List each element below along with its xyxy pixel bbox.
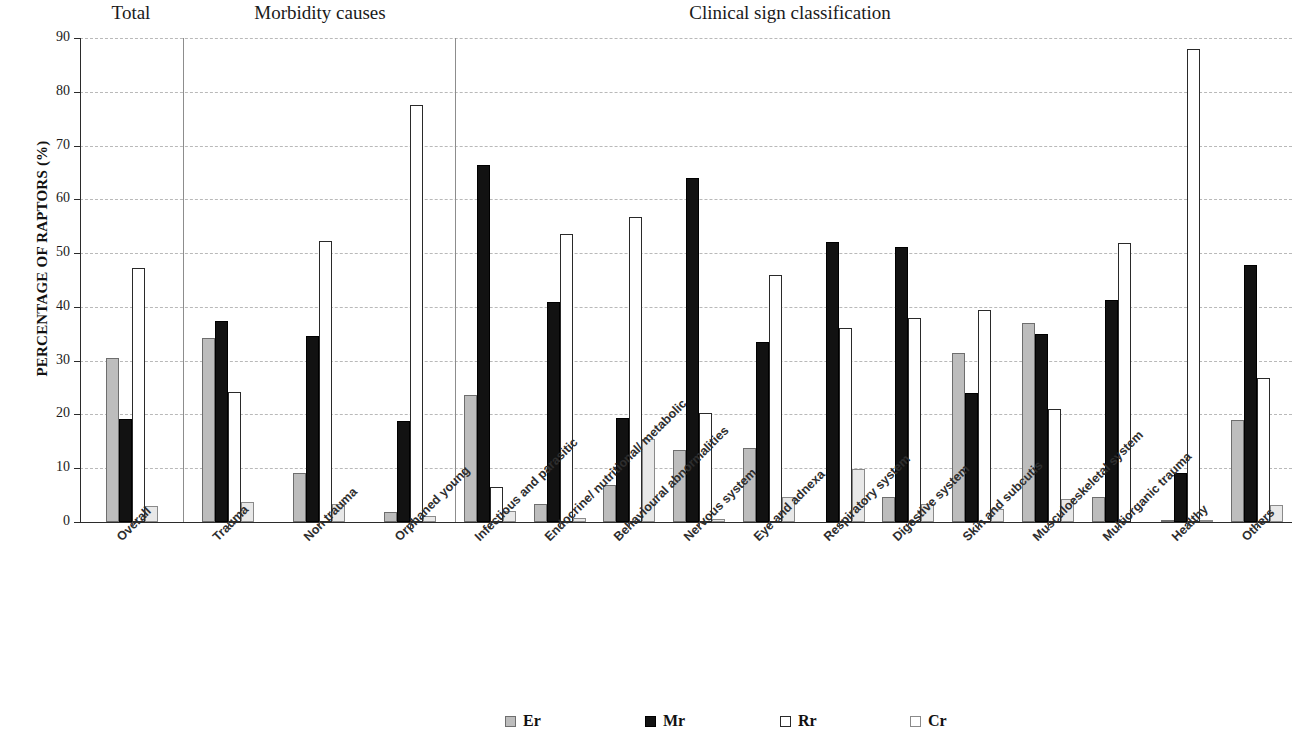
- bar-group: [464, 38, 516, 522]
- y-tick-label-0: 0: [36, 513, 70, 529]
- y-axis-line: [80, 38, 81, 523]
- bar-er-12[interactable]: [1022, 323, 1035, 523]
- legend-swatch-cr-icon: [910, 716, 921, 727]
- bar-mr-11[interactable]: [965, 393, 978, 522]
- legend-label-rr: Rr: [798, 712, 817, 730]
- bar-mr-13[interactable]: [1105, 300, 1118, 522]
- x-tick-mark-4: [490, 522, 491, 528]
- legend-item-cr[interactable]: Cr: [910, 712, 947, 730]
- legend-item-mr[interactable]: Mr: [645, 712, 685, 730]
- y-tick-label-20: 20: [36, 405, 70, 421]
- bar-rr-1[interactable]: [228, 392, 241, 522]
- bar-er-4[interactable]: [464, 395, 477, 522]
- x-tick-mark-12: [1048, 522, 1049, 528]
- y-tick-label-30: 30: [36, 352, 70, 368]
- bar-group: [1231, 38, 1283, 522]
- bar-rr-2[interactable]: [319, 241, 332, 522]
- y-tick-label-50: 50: [36, 244, 70, 260]
- bar-group: [384, 38, 436, 522]
- bar-rr-14[interactable]: [1187, 49, 1200, 522]
- x-tick-mark-10: [908, 522, 909, 528]
- bar-rr-10[interactable]: [908, 318, 921, 522]
- x-tick-mark-11: [978, 522, 979, 528]
- bar-rr-3[interactable]: [410, 105, 423, 522]
- bar-er-15[interactable]: [1231, 420, 1244, 522]
- y-tick-label-60: 60: [36, 190, 70, 206]
- x-tick-mark-1: [228, 522, 229, 528]
- bar-er-3[interactable]: [384, 512, 397, 522]
- bar-rr-8[interactable]: [769, 275, 782, 522]
- bar-er-1[interactable]: [202, 338, 215, 522]
- x-tick-mark-8: [769, 522, 770, 528]
- x-tick-mark-5: [560, 522, 561, 528]
- panel-separator-2: [455, 38, 456, 522]
- x-tick-mark-0: [132, 522, 133, 528]
- y-tick-label-40: 40: [36, 298, 70, 314]
- y-tick-label-90: 90: [36, 29, 70, 45]
- bar-mr-4[interactable]: [477, 165, 490, 522]
- bar-mr-12[interactable]: [1035, 334, 1048, 522]
- bar-mr-0[interactable]: [119, 419, 132, 522]
- bar-group: [1161, 38, 1213, 522]
- plot-area: [80, 38, 1292, 522]
- panel-separator-1: [183, 38, 184, 522]
- bar-er-10[interactable]: [882, 497, 895, 522]
- bar-group: [293, 38, 345, 522]
- x-tick-mark-14: [1187, 522, 1188, 528]
- bar-rr-11[interactable]: [978, 310, 991, 522]
- bar-rr-9[interactable]: [839, 328, 852, 522]
- x-tick-mark-15: [1257, 522, 1258, 528]
- chart-legend: ErMrRrCr: [0, 712, 1302, 742]
- bar-rr-13[interactable]: [1118, 243, 1131, 522]
- x-tick-mark-9: [839, 522, 840, 528]
- panel-titles-row: TotalMorbidity causesClinical sign class…: [0, 0, 1302, 30]
- legend-swatch-rr-icon: [780, 716, 791, 727]
- bar-rr-0[interactable]: [132, 268, 145, 522]
- bar-er-0[interactable]: [106, 358, 119, 522]
- bar-group: [1022, 38, 1074, 522]
- bar-er-11[interactable]: [952, 353, 965, 522]
- bar-er-5[interactable]: [534, 504, 547, 522]
- panel-title-2: Morbidity causes: [170, 2, 470, 24]
- x-tick-mark-13: [1118, 522, 1119, 528]
- x-tick-mark-7: [699, 522, 700, 528]
- y-tick-label-70: 70: [36, 137, 70, 153]
- bar-er-13[interactable]: [1092, 497, 1105, 522]
- bar-group: [813, 38, 865, 522]
- bar-rr-6[interactable]: [629, 217, 642, 522]
- bar-mr-1[interactable]: [215, 321, 228, 522]
- x-tick-mark-3: [410, 522, 411, 528]
- legend-label-cr: Cr: [928, 712, 947, 730]
- legend-item-rr[interactable]: Rr: [780, 712, 817, 730]
- legend-label-er: Er: [523, 712, 541, 730]
- y-tick-label-80: 80: [36, 83, 70, 99]
- bar-group: [202, 38, 254, 522]
- bar-group: [743, 38, 795, 522]
- y-tick-label-10: 10: [36, 459, 70, 475]
- x-tick-mark-6: [629, 522, 630, 528]
- bar-rr-5[interactable]: [560, 234, 573, 522]
- bar-mr-2[interactable]: [306, 336, 319, 522]
- bar-group: [952, 38, 1004, 522]
- bar-mr-5[interactable]: [547, 302, 560, 522]
- bar-mr-14[interactable]: [1174, 473, 1187, 522]
- bar-mr-10[interactable]: [895, 247, 908, 522]
- bar-rr-15[interactable]: [1257, 378, 1270, 522]
- bar-group: [882, 38, 934, 522]
- legend-swatch-mr-icon: [645, 716, 656, 727]
- bar-group: [106, 38, 158, 522]
- legend-label-mr: Mr: [663, 712, 685, 730]
- bar-mr-15[interactable]: [1244, 265, 1257, 522]
- bar-mr-9[interactable]: [826, 242, 839, 522]
- legend-item-er[interactable]: Er: [505, 712, 541, 730]
- bar-mr-8[interactable]: [756, 342, 769, 522]
- panel-title-3: Clinical sign classification: [640, 2, 940, 24]
- legend-swatch-er-icon: [505, 716, 516, 727]
- bar-er-2[interactable]: [293, 473, 306, 522]
- x-tick-mark-2: [319, 522, 320, 528]
- bar-mr-3[interactable]: [397, 421, 410, 522]
